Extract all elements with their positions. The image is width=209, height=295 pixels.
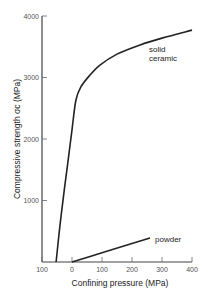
annotation-powder: powder [155,235,182,244]
y-axis-label: Compressive strength σc (MPa) [12,79,22,199]
x-tick-label: 400 [186,266,198,273]
annotation-solid: solid [149,45,165,54]
x-tick-label: 100 [96,266,108,273]
x-tick-label: 200 [126,266,138,273]
series-powder [72,238,150,262]
chart: 10002000300040001000100200300400 Confini… [0,0,209,295]
y-tick-label: 1000 [23,197,39,204]
annotation-ceramic: ceramic [149,54,177,63]
x-tick-label: 300 [156,266,168,273]
series-solid-ceramic [56,30,192,262]
x-tick-label: 0 [70,266,74,273]
plot-area: 10002000300040001000100200300400 Confini… [0,0,209,295]
y-tick-label: 3000 [23,74,39,81]
y-tick-label: 2000 [23,136,39,143]
x-axis-label: Confining pressure (MPa) [72,278,169,288]
x-tick-label: 100 [36,266,48,273]
y-tick-label: 4000 [23,13,39,20]
